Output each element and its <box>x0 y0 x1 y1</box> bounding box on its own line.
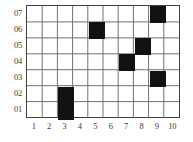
y-axis-tick-label: 06 <box>2 25 22 34</box>
y-axis-tick-label: 02 <box>2 89 22 98</box>
occupancy-grid-figure: 07060504030201 12345678910 <box>0 0 193 142</box>
x-axis-tick-label: 5 <box>88 122 103 131</box>
x-axis-tick-label: 8 <box>134 122 149 131</box>
y-axis-tick-label: 01 <box>2 105 22 114</box>
filled-cell <box>89 22 105 39</box>
filled-cell <box>58 87 74 104</box>
x-axis-tick-label: 3 <box>57 122 72 131</box>
plot-area <box>26 5 180 118</box>
y-axis-tick-label: 07 <box>2 9 22 18</box>
x-axis-tick-label: 2 <box>41 122 56 131</box>
x-axis-tick-label: 6 <box>103 122 118 131</box>
filled-cell <box>150 6 166 23</box>
y-axis-tick-label: 05 <box>2 41 22 50</box>
y-axis-tick-label: 04 <box>2 57 22 66</box>
x-axis-tick-label: 4 <box>72 122 87 131</box>
x-axis-tick-label: 1 <box>26 122 41 131</box>
x-axis-tick-label: 10 <box>165 122 180 131</box>
y-axis-tick-label: 03 <box>2 73 22 82</box>
filled-cell <box>150 71 166 88</box>
filled-cell <box>58 103 74 120</box>
x-axis-tick-label: 9 <box>149 122 164 131</box>
filled-cell <box>135 38 151 55</box>
filled-cell <box>119 54 135 71</box>
x-axis-tick-label: 7 <box>118 122 133 131</box>
